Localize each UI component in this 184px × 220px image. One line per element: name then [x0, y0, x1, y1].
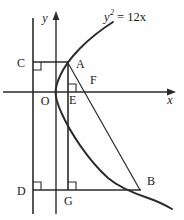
origin-label: O: [41, 94, 50, 108]
y-axis-arrowhead: [53, 11, 60, 20]
x-axis-label: x: [166, 93, 173, 107]
point-label-a: A: [76, 57, 85, 71]
point-label-b: B: [147, 174, 155, 188]
equation-rest: = 12x: [117, 10, 147, 24]
right-angle-marker-e: [68, 84, 76, 92]
point-label-c: C: [17, 56, 25, 70]
equation-base: y: [102, 10, 110, 24]
right-angle-marker-c: [33, 62, 41, 70]
geometry-figure: y x O A B C D E F G y 2 = 12x: [0, 0, 184, 220]
right-angle-marker-g: [68, 182, 76, 190]
point-label-g: G: [64, 194, 73, 208]
geometry-canvas: y x O A B C D E F G y 2 = 12x: [0, 0, 184, 220]
equation-label: y 2 = 12x: [102, 8, 147, 24]
y-axis-label: y: [41, 11, 48, 25]
point-label-d: D: [17, 184, 26, 198]
right-angle-marker-d: [33, 182, 41, 190]
equation-exponent: 2: [110, 8, 114, 17]
point-label-f: F: [90, 73, 97, 87]
point-label-e: E: [69, 93, 76, 107]
segment-a-b: [68, 63, 140, 190]
